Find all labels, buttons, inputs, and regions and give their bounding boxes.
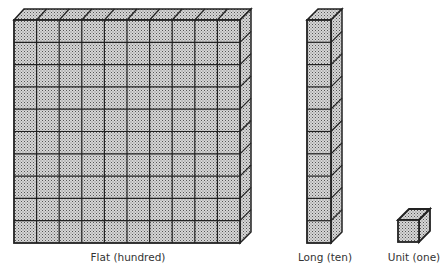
base-ten-blocks-diagram: [0, 0, 448, 276]
unit-label: Unit (one): [380, 251, 448, 263]
long-block: [307, 9, 342, 243]
unit-block: [398, 209, 430, 242]
flat-label: Flat (hundred): [78, 251, 178, 263]
long-label: Long (ten): [290, 251, 360, 263]
unit-front-face: [398, 220, 419, 242]
flat-block: [14, 9, 251, 243]
